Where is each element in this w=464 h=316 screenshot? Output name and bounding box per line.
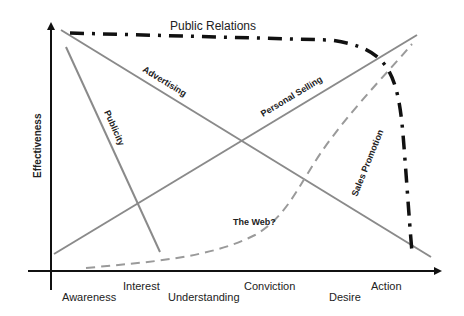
stage-desire: Desire [329, 291, 361, 303]
marketing-effectiveness-diagram: Effectiveness Public Relations Advertisi… [0, 0, 464, 316]
publicity-label: Publicity [102, 109, 126, 147]
publicity-line [66, 47, 160, 252]
stage-conviction: Conviction [244, 280, 295, 292]
sales-promotion-label: Sales Promotion [350, 128, 386, 198]
the-web-curve [86, 44, 412, 268]
stage-action: Action [371, 280, 402, 292]
public-relations-label: Public Relations [170, 19, 256, 33]
stage-understanding: Understanding [168, 291, 240, 303]
stage-interest: Interest [123, 280, 160, 292]
stage-awareness: Awareness [62, 291, 117, 303]
y-axis-title: Effectiveness [32, 113, 43, 178]
the-web-label: The Web? [233, 217, 276, 227]
